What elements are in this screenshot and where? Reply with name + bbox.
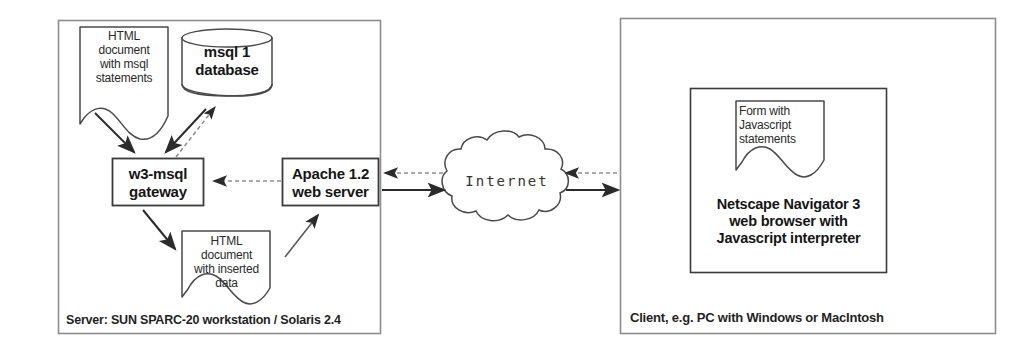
form-document-label: Form with Javascript statements bbox=[735, 104, 823, 146]
server-panel-caption: Server: SUN SPARC-20 workstation / Solar… bbox=[66, 313, 376, 328]
w3-msql-gateway-label: w3-msql gateway bbox=[110, 165, 206, 200]
html-source-document-label: HTML document with msql statements bbox=[76, 29, 172, 86]
internet-cloud-label: Internet bbox=[452, 173, 562, 190]
netscape-browser-label: Netscape Navigator 3 web browser with Ja… bbox=[692, 196, 885, 247]
arrow-database-to-gateway bbox=[166, 109, 206, 152]
msql-database-label: msql 1 database bbox=[182, 43, 272, 78]
arrow-result-doc-to-apache bbox=[285, 215, 318, 257]
apache-web-server-label: Apache 1.2 web server bbox=[281, 165, 380, 200]
arrow-gateway-to-database-dashed bbox=[176, 107, 215, 157]
arrow-gateway-to-result-doc bbox=[143, 210, 175, 249]
diagram-canvas: database (dashed query) --> gateway (das… bbox=[0, 0, 1023, 358]
client-panel-caption: Client, e.g. PC with Windows or MacIntos… bbox=[630, 310, 990, 325]
html-result-document-label: HTML document with inserted data bbox=[180, 234, 273, 291]
